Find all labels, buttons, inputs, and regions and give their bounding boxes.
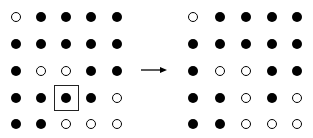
dead-cell	[241, 93, 251, 103]
live-cell	[215, 119, 225, 129]
right-arrow-icon	[140, 65, 168, 75]
dead-cell	[188, 12, 198, 22]
live-cell	[36, 119, 46, 129]
live-cell	[11, 93, 21, 103]
live-cell	[188, 93, 198, 103]
diagram-canvas	[0, 0, 313, 138]
highlighted-cell-box	[54, 85, 79, 111]
live-cell	[61, 39, 71, 49]
live-cell	[267, 12, 277, 22]
dead-cell	[112, 93, 122, 103]
live-cell	[267, 39, 277, 49]
live-cell	[112, 39, 122, 49]
live-cell	[61, 12, 71, 22]
live-cell	[36, 39, 46, 49]
live-cell	[11, 39, 21, 49]
dead-cell	[112, 119, 122, 129]
live-cell	[112, 66, 122, 76]
live-cell	[112, 12, 122, 22]
dead-cell	[215, 66, 225, 76]
dead-cell	[36, 66, 46, 76]
dead-cell	[86, 119, 96, 129]
dead-cell	[292, 119, 302, 129]
dead-cell	[61, 119, 71, 129]
live-cell	[292, 66, 302, 76]
live-cell	[215, 39, 225, 49]
live-cell	[188, 39, 198, 49]
dead-cell	[241, 66, 251, 76]
live-cell	[215, 12, 225, 22]
live-cell	[86, 93, 96, 103]
dead-cell	[11, 12, 21, 22]
live-cell	[86, 39, 96, 49]
dead-cell	[61, 66, 71, 76]
live-cell	[215, 93, 225, 103]
live-cell	[36, 12, 46, 22]
dead-cell	[267, 119, 277, 129]
dead-cell	[241, 119, 251, 129]
dead-cell	[292, 93, 302, 103]
live-cell	[292, 39, 302, 49]
live-cell	[11, 66, 21, 76]
live-cell	[241, 12, 251, 22]
live-cell	[86, 12, 96, 22]
live-cell	[241, 39, 251, 49]
live-cell	[86, 66, 96, 76]
live-cell	[11, 119, 21, 129]
live-cell	[292, 12, 302, 22]
live-cell	[188, 119, 198, 129]
live-cell	[267, 93, 277, 103]
live-cell	[36, 93, 46, 103]
live-cell	[267, 66, 277, 76]
live-cell	[188, 66, 198, 76]
